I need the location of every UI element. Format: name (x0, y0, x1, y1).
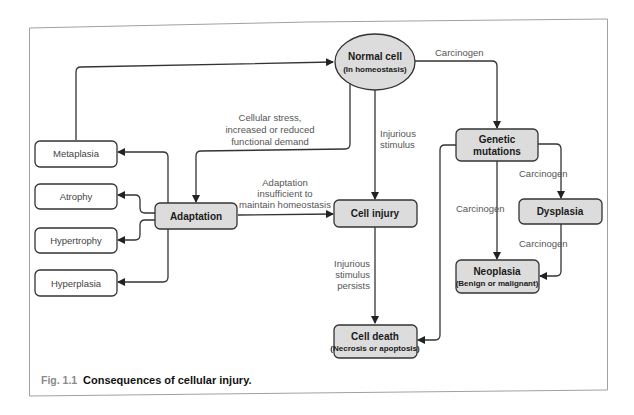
svg-text:Adaptation: Adaptation (262, 177, 307, 188)
svg-text:stimulus: stimulus (380, 139, 415, 150)
svg-text:stimulus: stimulus (335, 269, 370, 280)
node-hyperplasia: Hyperplasia (35, 270, 117, 296)
label-carcinogen-dysplasia-to-neoplasia: Carcinogen (519, 238, 568, 249)
label-cellular-stress: Cellular stress, increased or reduced fu… (225, 112, 314, 147)
svg-text:mutations: mutations (473, 146, 521, 157)
figure-number: Fig. 1.1 (41, 374, 77, 386)
svg-text:Genetic: Genetic (479, 134, 516, 145)
svg-text:increased or reduced: increased or reduced (225, 124, 314, 135)
svg-text:(In homeostasis): (In homeostasis) (343, 65, 407, 74)
figure-caption: Fig. 1.1 Consequences of cellular injury… (41, 374, 252, 386)
svg-text:insufficient to: insufficient to (257, 188, 312, 199)
svg-text:Atrophy: Atrophy (60, 191, 93, 202)
svg-text:Hyperplasia: Hyperplasia (51, 278, 102, 289)
svg-text:functional demand: functional demand (231, 136, 309, 147)
svg-text:maintain homeostasis: maintain homeostasis (239, 199, 331, 210)
svg-text:Normal cell: Normal cell (348, 51, 402, 62)
label-carcinogen-genetic-to-dysplasia: Carcinogen (519, 168, 568, 179)
svg-text:Metaplasia: Metaplasia (53, 148, 100, 159)
edge-adaptation-to-atrophy (118, 195, 155, 213)
node-genetic-mutations: Genetic mutations (456, 129, 538, 161)
svg-text:Injurious: Injurious (380, 128, 416, 139)
node-hypertrophy: Hypertrophy (35, 228, 117, 253)
edge-adaptation-to-hyperplasia (118, 229, 168, 282)
svg-text:Injurious: Injurious (334, 258, 370, 269)
svg-text:Neoplasia: Neoplasia (473, 266, 521, 277)
label-injurious-stimulus-persists: Injurious stimulus persists (334, 258, 370, 291)
label-carcinogen-genetic-to-neoplasia: Carcinogen (456, 203, 505, 214)
node-normal-cell: Normal cell (In homeostasis) (335, 34, 415, 90)
label-carcinogen-normal-to-genetic: Carcinogen (435, 47, 484, 58)
node-cell-injury: Cell injury (334, 200, 417, 227)
node-dysplasia: Dysplasia (519, 199, 602, 224)
node-cell-death: Cell death (Necrosis or apoptosis) (330, 325, 420, 358)
node-adaptation: Adaptation (155, 203, 237, 229)
edge-adaptation-to-hypertrophy (118, 220, 155, 240)
node-atrophy: Atrophy (35, 184, 117, 209)
edge-dysplasia-to-neoplasia (540, 224, 561, 276)
edge-adaptation-to-cell-injury (238, 214, 333, 215)
label-injurious-stimulus: Injurious stimulus (380, 128, 416, 150)
edge-normal-cell-to-genetic-mutations (415, 61, 497, 128)
diagram-figure: Cellular stress, increased or reduced fu… (0, 0, 634, 415)
svg-text:Hypertrophy: Hypertrophy (50, 235, 102, 246)
node-metaplasia: Metaplasia (35, 141, 117, 167)
svg-text:(Benign or malignant): (Benign or malignant) (456, 279, 539, 288)
edge-genetic-mutations-to-cell-death (418, 145, 456, 340)
svg-text:(Necrosis or apoptosis): (Necrosis or apoptosis) (330, 344, 420, 353)
svg-text:Cell death: Cell death (351, 331, 399, 342)
svg-text:Cell injury: Cell injury (351, 208, 400, 219)
svg-text:Dysplasia: Dysplasia (537, 206, 584, 217)
svg-text:Adaptation: Adaptation (170, 211, 222, 222)
svg-text:Cellular stress,: Cellular stress, (239, 112, 302, 123)
svg-text:persists: persists (337, 280, 370, 291)
figure-title: Consequences of cellular injury. (83, 374, 252, 386)
label-adaptation-insufficient: Adaptation insufficient to maintain home… (239, 177, 331, 210)
node-neoplasia: Neoplasia (Benign or malignant) (456, 260, 539, 293)
